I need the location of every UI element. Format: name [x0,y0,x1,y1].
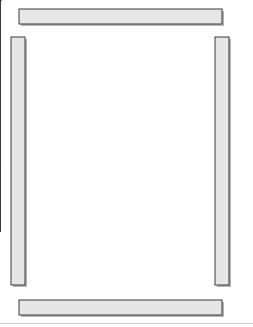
left-border-strip[interactable] [11,37,27,287]
bottom-border-strip[interactable] [19,300,224,317]
top-border-strip[interactable] [19,9,224,26]
page-rule [0,323,253,324]
top-border-strip-body [19,9,222,24]
right-border-strip-body [215,37,229,285]
right-border-strip[interactable] [215,37,231,287]
quilt-assembly-svg: .fab { fill: #e8e8e8; } .pc { fill: #e8e… [0,0,253,327]
bottom-border-strip-body [19,300,222,315]
left-border-strip-body [11,37,25,285]
quilt-diagram-canvas: .fab { fill: #e8e8e8; } .pc { fill: #e8e… [0,0,253,327]
